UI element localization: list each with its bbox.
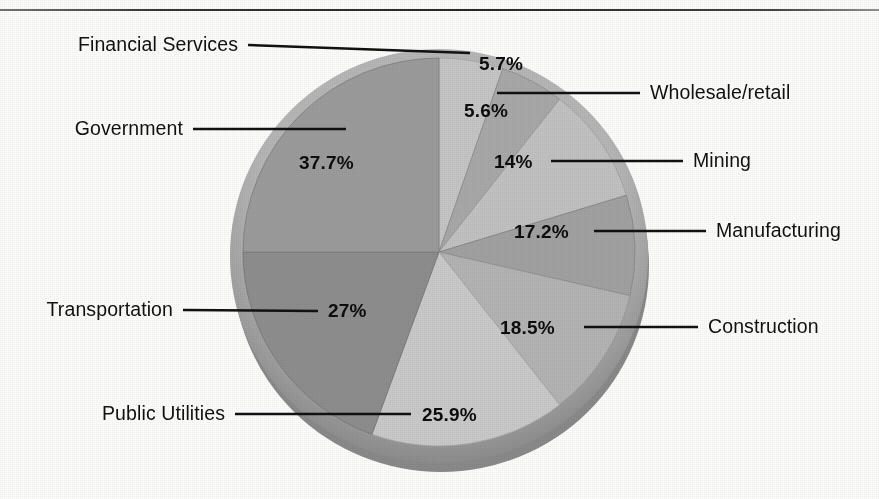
- callout-manufacturing: Manufacturing: [716, 219, 841, 242]
- leader-line-transportation: [183, 310, 318, 311]
- pie-chart-page: Financial Services Government Transporta…: [0, 0, 879, 499]
- value-label-manufacturing: 17.2%: [514, 221, 569, 243]
- value-label-construction: 18.5%: [500, 317, 555, 339]
- callout-construction: Construction: [708, 315, 819, 338]
- leader-line-financial-services: [248, 45, 470, 53]
- value-label-wholesale-retail: 5.6%: [464, 100, 508, 122]
- callout-transportation: Transportation: [18, 298, 173, 321]
- pie-chart-figure: Financial Services Government Transporta…: [0, 0, 879, 499]
- value-label-public-utilities: 25.9%: [422, 404, 477, 426]
- value-label-government: 37.7%: [299, 152, 354, 174]
- value-label-mining: 14%: [494, 151, 533, 173]
- callout-wholesale-retail: Wholesale/retail: [650, 81, 790, 104]
- callout-public-utilities: Public Utilities: [70, 402, 225, 425]
- callout-mining: Mining: [693, 149, 751, 172]
- callout-government: Government: [28, 117, 183, 140]
- value-label-financial-services: 5.7%: [479, 53, 523, 75]
- value-label-transportation: 27%: [328, 300, 367, 322]
- pie-slices-group: [243, 58, 635, 446]
- callout-financial-services: Financial Services: [68, 33, 238, 56]
